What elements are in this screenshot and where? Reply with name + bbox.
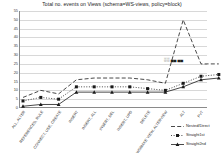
data-point-marker <box>75 85 78 88</box>
y-axis-tick-label: 35 <box>2 44 18 48</box>
series-nested-direct <box>23 20 219 98</box>
legend-label: Straight2nd <box>186 142 206 146</box>
y-axis-tick-label: 50 <box>2 18 18 22</box>
x-axis-tick-label: WSMAKE VIEW, ALTERVIEW <box>136 110 169 154</box>
x-axis-tick-label: PVT <box>197 110 205 119</box>
y-axis-tick-label: 20 <box>2 71 18 75</box>
data-point-marker <box>39 96 42 99</box>
y-axis-tick-label: 5 <box>2 97 18 101</box>
series-line <box>23 74 219 100</box>
y-axis-tick-label: 15 <box>2 80 18 84</box>
data-point-marker <box>93 85 96 88</box>
x-axis-tick-label: ALT <box>179 110 186 118</box>
data-point-marker <box>200 75 203 78</box>
data-point-marker <box>22 99 25 102</box>
chart-annotation: ░░ ▄▄ ▄▄ <box>164 58 183 62</box>
data-point-marker <box>57 98 60 101</box>
chart-title: Total no. events on Views (schema=WS-vie… <box>0 1 224 7</box>
y-axis-tick-label: 55 <box>2 9 18 13</box>
series-line <box>23 78 219 106</box>
chart-container: Total no. events on Views (schema=WS-vie… <box>0 0 224 163</box>
legend-key-icon <box>171 142 184 147</box>
legend-item[interactable]: Nested/Direct <box>171 122 224 131</box>
y-axis-tick-label: 0 <box>2 106 18 110</box>
legend-label: Straight1st <box>186 133 205 137</box>
x-axis-tick-label: INSERT, ALL <box>81 110 97 131</box>
y-axis-tick-label: 25 <box>2 62 18 66</box>
series-straight2nd <box>21 76 221 108</box>
data-point-marker <box>182 82 185 85</box>
series-straight1st <box>22 73 221 102</box>
series-line <box>23 20 219 98</box>
legend-item[interactable]: Straight2nd <box>171 140 224 149</box>
y-axis-tick-label: 30 <box>2 53 18 57</box>
data-point-marker <box>217 73 220 76</box>
x-axis-tick-label: INSERT <box>68 110 79 124</box>
legend-item[interactable]: Straight1st <box>171 131 224 140</box>
x-axis-tick-label: DELETE <box>139 110 151 125</box>
chart-legend: Nested/DirectStraight1stStraight2nd <box>171 122 224 149</box>
y-axis-tick-label: 10 <box>2 88 18 92</box>
x-axis-tick-label: INSERT, DEL <box>99 110 116 131</box>
legend-key-icon <box>171 124 184 129</box>
y-axis: 0510152025303540455055 <box>0 11 18 108</box>
legend-label: Nested/Direct <box>186 124 210 128</box>
data-point-marker <box>111 85 114 88</box>
x-axis-tick-label: ALL, ALTER <box>11 110 26 129</box>
y-axis-tick-label: 40 <box>2 35 18 39</box>
legend-key-icon <box>171 133 184 138</box>
y-axis-tick-label: 45 <box>2 27 18 31</box>
data-point-marker <box>128 85 131 88</box>
data-point-marker <box>146 87 149 90</box>
x-axis-tick-label: INSERT, UPD <box>116 110 133 132</box>
